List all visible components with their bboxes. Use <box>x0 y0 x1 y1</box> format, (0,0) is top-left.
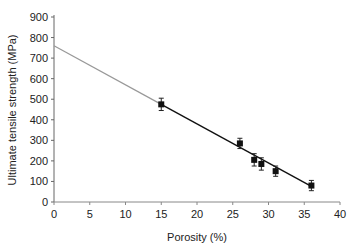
x-tick-label: 0 <box>51 208 57 220</box>
x-tick-label: 30 <box>262 208 274 220</box>
x-tick-label: 15 <box>155 208 167 220</box>
y-tick-label: 300 <box>30 134 48 146</box>
y-tick-label: 900 <box>30 11 48 23</box>
data-point <box>237 138 243 148</box>
x-axis-label: Porosity (%) <box>167 231 227 243</box>
square-marker <box>308 183 314 189</box>
square-marker <box>158 101 164 107</box>
fit-line-data <box>161 104 311 186</box>
y-tick-label: 600 <box>30 73 48 85</box>
y-axis-label: Ultimate tensile strength (MPa) <box>6 35 18 186</box>
scatter-chart: 0100200300400500600700800900 05101520253… <box>0 0 354 246</box>
x-axis-ticks: 0510152025303540 <box>51 202 346 220</box>
data-point <box>158 98 164 110</box>
y-tick-label: 700 <box>30 52 48 64</box>
x-tick-label: 20 <box>191 208 203 220</box>
x-tick-label: 40 <box>334 208 346 220</box>
x-tick-label: 35 <box>298 208 310 220</box>
square-marker <box>258 161 264 167</box>
y-tick-label: 0 <box>42 196 48 208</box>
x-tick-label: 10 <box>119 208 131 220</box>
y-tick-label: 200 <box>30 155 48 167</box>
x-tick-label: 5 <box>87 208 93 220</box>
x-tick-label: 25 <box>227 208 239 220</box>
y-tick-label: 400 <box>30 114 48 126</box>
y-tick-label: 800 <box>30 32 48 44</box>
fit-line <box>54 46 311 187</box>
data-point <box>308 180 314 190</box>
y-axis-ticks: 0100200300400500600700800900 <box>30 11 54 208</box>
square-marker <box>251 157 257 163</box>
fit-line-extrapolated <box>54 46 161 105</box>
y-tick-label: 500 <box>30 93 48 105</box>
square-marker <box>273 168 279 174</box>
axes <box>54 15 340 202</box>
data-points <box>158 98 314 191</box>
y-tick-label: 100 <box>30 175 48 187</box>
square-marker <box>237 140 243 146</box>
